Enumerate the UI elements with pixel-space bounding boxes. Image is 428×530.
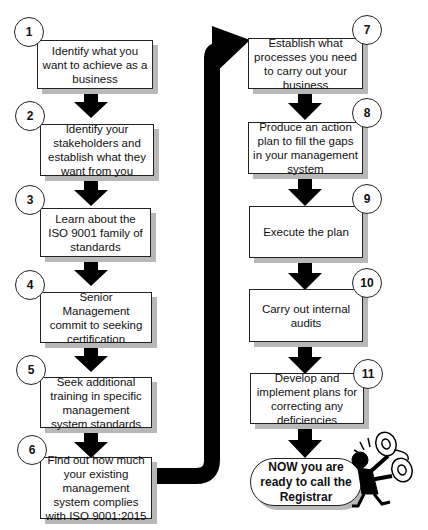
step-4-box: Senior Management commit to seeking cert…	[40, 292, 152, 343]
step-11-number: 11	[353, 359, 383, 389]
step-6-text: Find out how much your existing manageme…	[45, 453, 147, 523]
step-1-number: 1	[14, 17, 44, 47]
step-5-number: 5	[16, 355, 46, 385]
step-9-text: Execute the plan	[263, 225, 349, 239]
final-step-text: NOW you are ready to call the Registrar	[251, 460, 361, 505]
step-2-number: 2	[15, 101, 45, 131]
step-6-box: Find out how much your existing manageme…	[40, 457, 152, 519]
step-9-number: 9	[352, 184, 382, 214]
step-3-text: Learn about the ISO 9001 family of stand…	[45, 212, 146, 254]
arrow-down-2-3	[74, 176, 108, 206]
step-1-box: Identify what you want to achieve as a b…	[37, 40, 153, 89]
arrow-down-1-2	[74, 88, 108, 118]
step-5-box: Seek additional training in specific man…	[40, 377, 152, 428]
arrow-down-11-final	[288, 424, 322, 458]
step-3-number: 3	[15, 185, 45, 215]
step-10-box: Carry out internal audits	[249, 289, 363, 342]
step-7-text: Establish what processes you need to car…	[253, 36, 358, 92]
step-4-text: Senior Management commit to seeking cert…	[45, 290, 147, 346]
step-9-box: Execute the plan	[249, 206, 363, 258]
arrow-down-10-11	[288, 342, 322, 374]
step-8-number: 8	[352, 98, 382, 128]
step-3-box: Learn about the ISO 9001 family of stand…	[40, 208, 151, 257]
arrow-down-8-9	[288, 174, 322, 206]
step-1-text: Identify what you want to achieve as a b…	[42, 44, 148, 86]
step-11-text: Develop and implement plans for correcti…	[255, 371, 359, 427]
arrow-down-4-5	[74, 342, 108, 372]
step-6-number: 6	[17, 435, 47, 465]
step-11-box: Develop and implement plans for correcti…	[250, 373, 364, 424]
person-telephone-icon	[348, 430, 418, 510]
step-10-text: Carry out internal audits	[254, 302, 358, 330]
arrow-down-7-8	[288, 88, 322, 120]
step-4-number: 4	[15, 270, 45, 300]
step-7-number: 7	[352, 15, 382, 45]
step-7-box: Establish what processes you need to car…	[248, 38, 363, 89]
step-8-box: Produce an action plan to fill the gaps …	[248, 122, 363, 174]
step-8-text: Produce an action plan to fill the gaps …	[253, 120, 358, 176]
step-5-text: Seek additional training in specific man…	[45, 375, 147, 431]
final-step-box: NOW you are ready to call the Registrar	[250, 458, 362, 506]
step-2-box: Identify your stakeholders and establish…	[40, 124, 154, 176]
step-2-text: Identify your stakeholders and establish…	[45, 122, 149, 178]
step-10-number: 10	[352, 268, 382, 298]
arrow-down-9-10	[288, 258, 322, 290]
arrow-down-3-4	[74, 256, 108, 286]
